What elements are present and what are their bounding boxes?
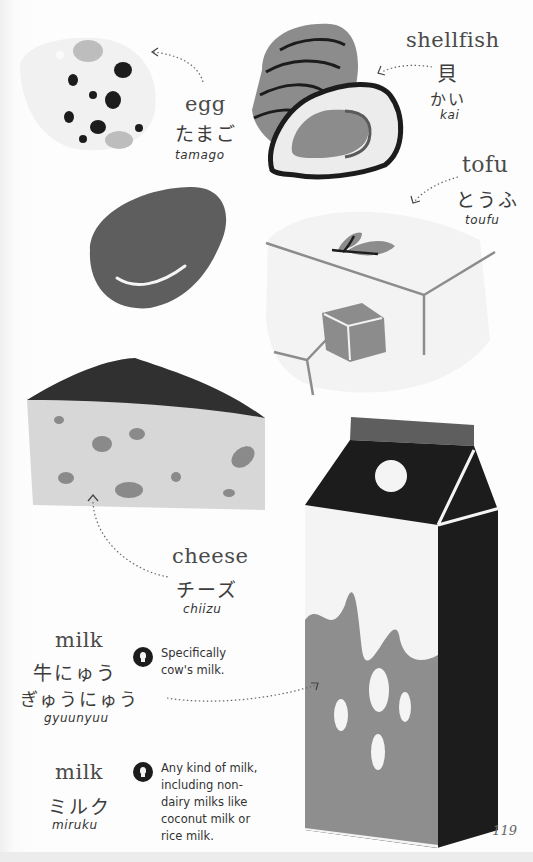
tofu-romaji: toufu (465, 213, 499, 227)
milk-any-note: Any kind of milk, including non- dairy m… (133, 760, 257, 845)
brown-egg-icon (90, 187, 226, 308)
lightbulb-icon (133, 762, 153, 782)
shellfish-kana: かい (430, 86, 466, 110)
milk-cow-note-text: Specifically cow's milk. (161, 645, 226, 679)
tofu-icon (266, 212, 495, 395)
egg-english: egg (185, 92, 226, 116)
cheese-japanese: チーズ (176, 575, 238, 602)
tofu-english: tofu (462, 152, 508, 177)
cheese-english: cheese (172, 544, 248, 568)
milk-any-note-text: Any kind of milk, including non- dairy m… (161, 760, 257, 845)
page-number: 119 (492, 823, 517, 838)
milk-any-katakana: ミルク (48, 792, 111, 819)
milk-cow-english: milk (55, 628, 103, 652)
shellfish-romaji: kai (440, 108, 459, 122)
egg-japanese: たまご (175, 119, 237, 146)
shellfish-english: shellfish (406, 28, 499, 52)
milk-cow-note: Specifically cow's milk. (133, 645, 226, 679)
milk-any-english: milk (55, 760, 103, 784)
illustrations (0, 0, 533, 862)
milk-any-romaji: miruku (52, 818, 98, 832)
egg-romaji: tamago (175, 148, 225, 162)
milk-cow-kana: ぎゅうにゅう (20, 685, 139, 711)
milk-cow-romaji: gyuunyuu (44, 711, 109, 725)
lightbulb-icon (133, 647, 153, 667)
shellfish-kanji: 貝 (437, 58, 459, 87)
milk-carton-icon (305, 417, 500, 848)
tofu-japanese: とうふ (456, 185, 519, 212)
shellfish-icon (252, 24, 401, 177)
speckled-egg-icon (20, 38, 156, 150)
milk-cow-kanji: 牛にゅう (33, 658, 117, 685)
cheese-romaji: chiizu (183, 602, 221, 616)
cheese-icon (27, 358, 265, 510)
